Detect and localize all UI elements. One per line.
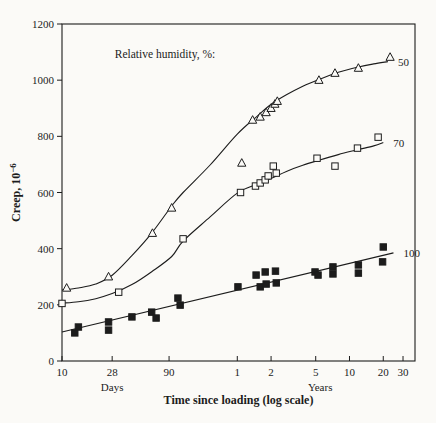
x-tick-label: 30	[398, 366, 410, 378]
point-rh-50-triangle-marker	[386, 53, 394, 61]
point-rh-50-triangle-marker	[238, 159, 246, 167]
x-axis-title: Time since loading (log scale)	[164, 393, 314, 407]
x-tick-label: 10	[344, 366, 356, 378]
curve-rh-50	[62, 62, 388, 290]
x-tick-label: 28	[107, 366, 119, 378]
y-axis-title: Creep, 10−6	[8, 163, 23, 222]
point-rh-50-triangle-marker	[315, 76, 323, 84]
point-rh-100-filled-square-marker	[105, 319, 111, 325]
point-rh-100-filled-square-marker	[330, 264, 336, 270]
x-tick-label: 2	[268, 366, 274, 378]
point-rh-100-filled-square-marker	[355, 270, 361, 276]
point-rh-70-square-marker	[180, 236, 186, 242]
point-rh-100-filled-square-marker	[273, 280, 279, 286]
point-rh-100-filled-square-marker	[75, 324, 81, 330]
point-rh-100-filled-square-marker	[175, 295, 181, 301]
point-rh-70-square-marker	[237, 189, 243, 195]
point-rh-70-square-marker	[375, 134, 381, 140]
point-rh-70-square-marker	[332, 163, 338, 169]
series-label-rh-70: 70	[393, 137, 405, 149]
y-tick-label: 400	[38, 243, 55, 255]
creep-vs-time-chart: 020040060080010001200102890125102030Days…	[0, 0, 436, 423]
x-tick-label: 10	[57, 366, 69, 378]
x-tick-label: 1	[235, 366, 241, 378]
x-tick-label: 90	[164, 366, 176, 378]
scanned-figure-page: 020040060080010001200102890125102030Days…	[0, 0, 436, 423]
point-rh-100-filled-square-marker	[177, 302, 183, 308]
point-rh-100-filled-square-marker	[105, 327, 111, 333]
x-unit-label: Years	[308, 381, 333, 393]
y-tick-label: 800	[38, 130, 55, 142]
y-tick-label: 1000	[32, 74, 55, 86]
y-tick-label: 0	[49, 355, 55, 367]
series-label-rh-50: 50	[398, 56, 410, 68]
point-rh-100-filled-square-marker	[257, 284, 263, 290]
point-rh-70-square-marker	[354, 145, 360, 151]
point-rh-100-filled-square-marker	[235, 284, 241, 290]
x-tick-label: 20	[378, 366, 390, 378]
point-rh-50-triangle-marker	[148, 229, 156, 237]
point-rh-70-square-marker	[314, 155, 320, 161]
point-rh-100-filled-square-marker	[315, 272, 321, 278]
point-rh-100-filled-square-marker	[129, 314, 135, 320]
point-rh-100-filled-square-marker	[355, 262, 361, 268]
y-tick-label: 200	[38, 299, 55, 311]
point-rh-100-filled-square-marker	[253, 272, 259, 278]
point-rh-70-square-marker	[115, 289, 121, 295]
point-rh-100-filled-square-marker	[330, 271, 336, 277]
point-rh-100-filled-square-marker	[153, 315, 159, 321]
point-rh-70-square-marker	[59, 300, 65, 306]
x-unit-label: Days	[101, 381, 124, 393]
y-tick-label: 1200	[32, 18, 55, 30]
point-rh-50-triangle-marker	[249, 116, 257, 124]
point-rh-100-filled-square-marker	[263, 281, 269, 287]
point-rh-100-filled-square-marker	[262, 269, 268, 275]
point-rh-50-triangle-marker	[63, 284, 71, 292]
chart-annotation: Relative humidity, %:	[115, 48, 216, 61]
series-label-rh-100: 100	[403, 247, 420, 259]
point-rh-100-filled-square-marker	[272, 268, 278, 274]
point-rh-70-square-marker	[270, 163, 276, 169]
y-tick-label: 600	[38, 187, 55, 199]
point-rh-100-filled-square-marker	[380, 244, 386, 250]
point-rh-50-triangle-marker	[168, 204, 176, 212]
point-rh-70-square-marker	[265, 173, 271, 179]
point-rh-70-square-marker	[273, 170, 279, 176]
point-rh-100-filled-square-marker	[379, 259, 385, 265]
x-tick-label: 5	[313, 366, 319, 378]
